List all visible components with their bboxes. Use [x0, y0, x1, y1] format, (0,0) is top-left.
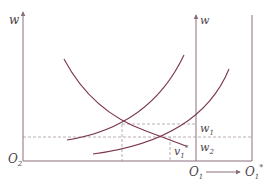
axes — [23, 12, 252, 172]
origin-o1-star-label: O1* — [245, 163, 263, 181]
guide-lines — [23, 124, 252, 161]
v1-star-label: v1* — [174, 144, 189, 160]
right-axis-label: w — [200, 14, 210, 27]
origin-o2-label: O2 — [8, 152, 23, 168]
w2-label: w2 — [200, 141, 214, 156]
labor-market-diagram: w w O2 O1 O1* w1 w2 v1* — [0, 0, 266, 181]
curves — [64, 55, 229, 154]
left-axis-label: w — [9, 13, 20, 27]
w1-label: w1 — [200, 122, 214, 137]
left-supply-curve — [67, 55, 184, 140]
origin-o1-label: O1 — [189, 165, 203, 181]
